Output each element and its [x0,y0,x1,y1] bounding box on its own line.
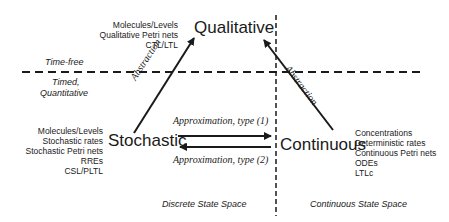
continuous-property: LTLc [355,168,436,178]
qualitative-property: CTL/LTL [100,40,178,50]
approximation-type2-label: Approximation, type (2) [173,154,268,165]
stochastic-property: RREs [26,156,103,166]
qualitative-property: Qualitative Petri nets [100,30,178,40]
qualitative-node-label: Qualitative [194,18,274,37]
continuous-property: Continuous Petri nets [355,148,436,158]
stochastic-node-label: Stochastic [108,131,186,150]
continuous-property: Deterministic rates [355,138,436,148]
stochastic-property: Stochastic rates [26,136,103,146]
continuous-property: Concentrations [355,128,436,138]
discrete-state-space-label: Discrete State Space [162,199,247,210]
stochastic-properties: Molecules/Levels Stochastic rates Stocha… [26,126,103,176]
continuous-properties: Concentrations Deterministic rates Conti… [355,128,436,178]
continuous-property: ODEs [355,158,436,168]
stochastic-property: Molecules/Levels [26,126,103,136]
approximation-type1-label: Approximation, type (1) [173,115,268,126]
stochastic-property: Stochastic Petri nets [26,146,103,156]
qualitative-property: Molecules/Levels [100,20,178,30]
time-free-label: Time-free [45,57,83,68]
stochastic-property: CSL/PLTL [26,166,103,176]
continuous-node-label: Continuous [280,135,366,154]
quantitative-label: Quantitative [40,88,88,99]
qualitative-properties: Molecules/Levels Qualitative Petri nets … [100,20,178,50]
continuous-state-space-label: Continuous State Space [310,199,407,210]
timed-label: Timed, [52,77,79,88]
